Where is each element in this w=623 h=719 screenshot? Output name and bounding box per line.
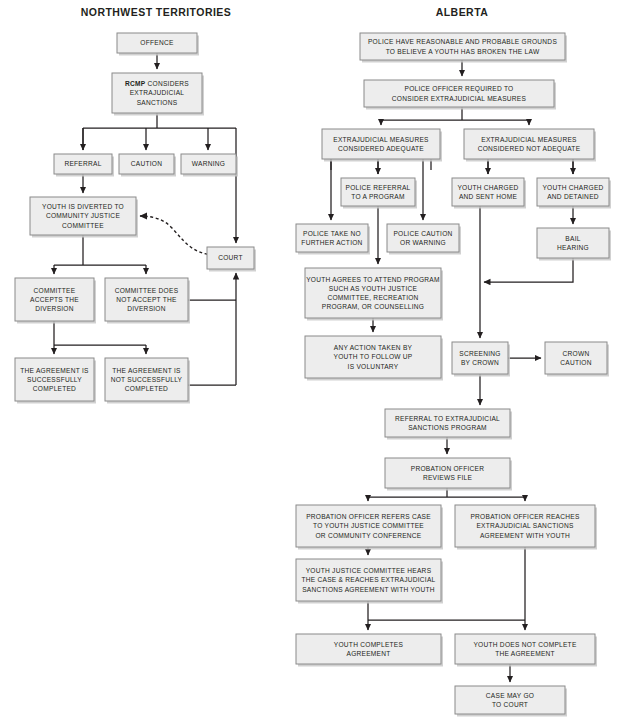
node-box <box>464 129 594 159</box>
node-box <box>387 224 459 252</box>
node-ab_may_go_court: CASE MAY GOTO COURT <box>455 686 567 717</box>
node-label: REFERRAL <box>64 160 101 167</box>
node-nwt_not_success: THE AGREEMENT ISNOT SUCCESSFULLYCOMPLETE… <box>105 358 190 404</box>
node-box <box>452 342 508 374</box>
node-ab_detained: YOUTH CHARGEDAND DETAINED <box>537 178 611 209</box>
node-ab_bail: BAILHEARING <box>537 228 611 261</box>
node-ab_screening: SCREENINGBY CROWN <box>452 342 510 377</box>
node-ab_refer_sanctions: REFERRAL TO EXTRAJUDICIALSANCTIONS PROGR… <box>385 409 512 440</box>
node-box <box>296 634 441 664</box>
process-nodes: OFFENCERCMP CONSIDERSEXTRAJUDICIALSANCTI… <box>15 33 611 717</box>
node-label: YOUTH JUSTICE COMMITTEE HEARSTHE CASE & … <box>301 567 435 592</box>
node-nwt_offence: OFFENCE <box>117 33 199 56</box>
node-ab_grounds: POLICE HAVE REASONABLE AND PROBABLE GROU… <box>360 33 567 63</box>
node-box <box>385 409 510 437</box>
node-ab_consider: POLICE OFFICER REQUIRED TOCONSIDER EXTRA… <box>364 80 556 110</box>
node-box <box>385 458 510 488</box>
node-label: OFFENCE <box>140 39 174 46</box>
node-nwt_warning: WARNING <box>181 154 238 177</box>
node-box <box>364 80 554 107</box>
connector-e_ab_bail_join <box>484 258 573 282</box>
node-label: CAUTION <box>131 160 162 167</box>
connector-e_rcmp_split <box>83 113 236 150</box>
node-box <box>452 178 524 206</box>
connector-e_diverted_split <box>54 235 146 265</box>
node-box <box>341 178 415 206</box>
node-box <box>545 342 607 374</box>
node-ab_not_adequate: EXTRAJUDICIAL MEASURESCONSIDERED NOT ADE… <box>464 129 596 162</box>
node-label: COURT <box>218 254 243 261</box>
node-ab_yjc_hears: YOUTH JUSTICE COMMITTEE HEARSTHE CASE & … <box>296 559 443 604</box>
node-label: WARNING <box>192 160 225 167</box>
node-ab_po_refers: PROBATION OFFICER REFERS CASETO YOUTH JU… <box>296 505 443 550</box>
node-ab_adequate: EXTRAJUDICIAL MEASURESCONSIDERED ADEQUAT… <box>322 129 442 162</box>
node-ab_sent_home: YOUTH CHARGEDAND SENT HOME <box>452 178 526 209</box>
connector-e_ab_yjc_split <box>368 601 525 620</box>
flowchart-root: NORTHWEST TERRITORIESALBERTA OFFENCERCMP… <box>0 0 623 719</box>
node-box <box>322 129 440 159</box>
node-box <box>360 33 565 60</box>
node-box <box>296 224 368 252</box>
node-ab_crown_caution: CROWNCAUTION <box>545 342 609 377</box>
node-label: PROBATION OFFICER REACHESEXTRAJUDICIAL S… <box>470 513 579 538</box>
node-ab_completes: YOUTH COMPLETESAGREEMENT <box>296 634 443 667</box>
node-nwt_accepts: COMMITTEEACCEPTS THEDIVERSION <box>15 278 96 324</box>
node-ab_not_completes: YOUTH DOES NOT COMPLETETHE AGREEMENT <box>455 634 597 667</box>
connector-e_accepts_split <box>54 321 146 345</box>
column-title-alberta: ALBERTA <box>436 6 489 18</box>
node-box <box>537 178 609 206</box>
node-box <box>455 634 595 664</box>
node-ab_no_action: POLICE TAKE NOFURTHER ACTION <box>296 224 370 255</box>
column-titles: NORTHWEST TERRITORIESALBERTA <box>81 6 488 18</box>
node-nwt_caution: CAUTION <box>119 154 176 177</box>
node-ab_po_reaches: PROBATION OFFICER REACHESEXTRAJUDICIAL S… <box>455 505 597 550</box>
column-title-nwt: NORTHWEST TERRITORIES <box>81 6 231 18</box>
node-nwt_success: THE AGREEMENT ISSUCCESSFULLYCOMPLETED <box>15 358 96 404</box>
node-nwt_referral: REFERRAL <box>54 154 114 177</box>
node-label: COMMITTEEACCEPTS THEDIVERSION <box>30 287 79 312</box>
node-nwt_not_accepts: COMMITTEE DOESNOT ACCEPT THEDIVERSION <box>105 278 190 324</box>
node-label: EXTRAJUDICIAL MEASURESCONSIDERED NOT ADE… <box>478 136 581 153</box>
node-nwt_court: COURT <box>207 247 256 272</box>
node-ab_agrees: YOUTH AGREES TO ATTEND PROGRAMSUCH AS YO… <box>305 268 443 321</box>
flowchart-canvas: NORTHWEST TERRITORIESALBERTA OFFENCERCMP… <box>0 0 623 719</box>
node-ab_caution_warning: POLICE CAUTIONOR WARNING <box>387 224 461 255</box>
node-nwt_diverted: YOUTH IS DIVERTED TOCOMMUNITY JUSTICECOM… <box>30 197 138 238</box>
node-ab_probation_rev: PROBATION OFFICERREVIEWS FILE <box>385 458 512 491</box>
node-ab_voluntary: ANY ACTION TAKEN BYYOUTH TO FOLLOW UPIS … <box>305 336 443 381</box>
node-box <box>537 228 609 258</box>
node-box <box>455 686 565 714</box>
node-nwt_rcmp: RCMP CONSIDERSEXTRAJUDICIALSANCTIONS <box>112 73 204 116</box>
node-label: PROBATION OFFICER REFERS CASETO YOUTH JU… <box>306 513 431 538</box>
node-ab_referral_prog: POLICE REFERRALTO A PROGRAM <box>341 178 417 209</box>
node-label: EXTRAJUDICIAL MEASURESCONSIDERED ADEQUAT… <box>333 136 429 153</box>
